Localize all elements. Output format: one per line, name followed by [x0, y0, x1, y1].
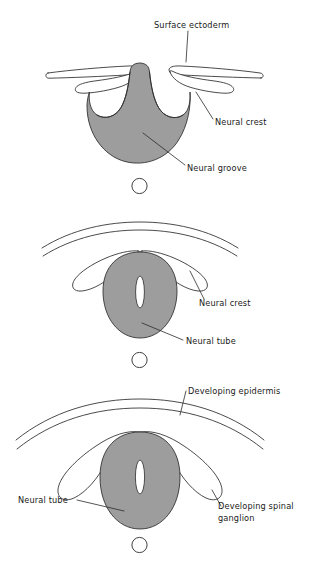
neural-lumen-panel2 — [136, 276, 145, 308]
label-neural-tube-panel2: Neural tube — [186, 336, 236, 346]
label-spinal-ganglion-line1: Developing spinal — [218, 501, 294, 511]
label-surface-ectoderm: Surface ectoderm — [154, 20, 229, 30]
neural-lumen-panel3 — [135, 460, 144, 494]
notochord-circle — [132, 178, 147, 193]
label-developing-epidermis: Developing epidermis — [188, 386, 280, 396]
notochord-circle-panel3 — [132, 537, 147, 552]
label-neural-crest-panel1: Neural crest — [215, 117, 267, 127]
label-neural-tube-panel3: Neural tube — [18, 495, 68, 505]
label-spinal-ganglion-line2: ganglion — [218, 513, 255, 523]
notochord-circle-panel2 — [132, 352, 147, 367]
label-neural-groove: Neural groove — [187, 163, 247, 173]
label-neural-crest-panel2: Neural crest — [199, 298, 251, 308]
neurulation-diagram: Surface ectoderm Neural crest Neural gro… — [0, 0, 309, 562]
